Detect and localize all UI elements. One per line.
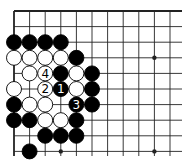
black-stone [7, 97, 22, 112]
black-stone [69, 113, 84, 128]
white-stone [22, 66, 37, 81]
move-number-label: 3 [73, 98, 81, 112]
star-point [59, 149, 63, 153]
white-stone [38, 113, 53, 128]
white-stone: 4 [38, 66, 53, 81]
move-number-label: 1 [57, 82, 65, 96]
black-stone [69, 128, 84, 143]
black-stone [22, 144, 37, 159]
star-point [152, 56, 156, 60]
star-point [152, 149, 156, 153]
black-stone [85, 66, 100, 81]
move-number-label: 4 [41, 67, 49, 81]
black-stone [69, 50, 84, 65]
black-stone [7, 113, 22, 128]
white-stone [69, 82, 84, 97]
white-stone [22, 97, 37, 112]
black-stone [85, 97, 100, 112]
black-stone [38, 35, 53, 50]
black-stone [53, 128, 68, 143]
white-stone [53, 50, 68, 65]
white-stone [38, 50, 53, 65]
black-stone: 1 [53, 82, 68, 97]
black-stone [22, 113, 37, 128]
white-stone [53, 113, 68, 128]
white-stone [22, 50, 37, 65]
go-board-diagram: 4213 [0, 0, 191, 162]
stones: 4213 [7, 35, 100, 159]
black-stone [53, 35, 68, 50]
white-stone: 2 [38, 82, 53, 97]
black-stone: 3 [69, 97, 84, 112]
black-stone [38, 128, 53, 143]
black-stone [7, 35, 22, 50]
white-stone [7, 50, 22, 65]
black-stone [22, 35, 37, 50]
black-stone [53, 66, 68, 81]
white-stone [38, 97, 53, 112]
white-stone [69, 66, 84, 81]
move-number-label: 2 [41, 82, 49, 96]
white-stone [7, 82, 22, 97]
black-stone [85, 82, 100, 97]
